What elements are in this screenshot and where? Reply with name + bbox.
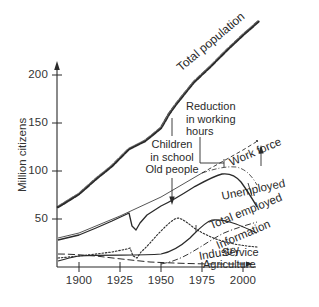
x-tick-label-1975: 1975 [185,274,219,286]
label-children-line1: Children [131,138,213,151]
label-reduction-line3: hours [186,125,260,138]
label-service: Service [222,246,282,259]
y-axis-title-text: Million citizens [16,118,28,192]
y-tick-label-100: 100 [18,164,48,176]
label-children-line3: Old people [131,163,213,176]
y-axis-arrowhead [54,61,60,70]
label-reduction-line2: in working [186,113,260,126]
label-agriculture: Agriculture [203,258,263,271]
series-work-force-endpoint [256,140,258,142]
label-children-in-school: Children in school Old people [131,138,213,176]
x-tick-label-1925: 1925 [103,274,137,286]
chart-figure: Million citizens 200 150 100 50 1900 192… [0,0,319,307]
x-tick-label-1900: 1900 [62,274,96,286]
y-tick-label-150: 150 [18,116,48,128]
label-reduction-working-hours: Reduction in working hours [186,100,260,138]
x-tick-label-2000: 2000 [226,274,260,286]
series-work-force-solid [58,173,202,238]
y-tick-label-50: 50 [18,212,48,224]
series-total-employed [58,174,257,240]
label-reduction-line1: Reduction [186,100,260,113]
x-tick-label-1950: 1950 [144,274,178,286]
y-tick-label-200: 200 [18,68,48,80]
label-children-line2: in school [131,151,213,164]
y-axis-title: Million citizens [16,118,28,192]
